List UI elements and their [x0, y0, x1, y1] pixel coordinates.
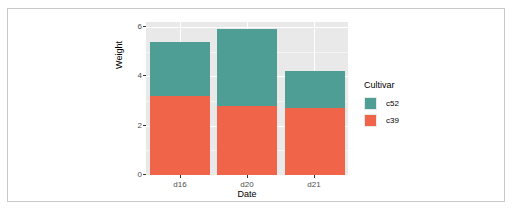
y-tick-label: 4 — [128, 72, 142, 80]
plot-panel — [146, 22, 348, 175]
x-tick-label: d20 — [227, 180, 267, 189]
legend-item[interactable]: c39 — [364, 112, 434, 129]
bar-group[interactable] — [217, 29, 277, 175]
legend-items: c52c39 — [364, 95, 434, 129]
legend-key — [364, 114, 377, 127]
chart-figure: Weight 0246 d16d20d21 Date Cultivar c52c… — [7, 8, 505, 202]
bar-segment[interactable] — [150, 42, 210, 96]
bar-segment[interactable] — [150, 96, 210, 175]
bar-segment[interactable] — [217, 106, 277, 175]
y-tick-label: 0 — [128, 171, 142, 179]
legend-title: Cultivar — [364, 80, 434, 91]
y-tick-label: 6 — [128, 23, 142, 31]
x-tick-mark — [314, 175, 315, 178]
legend-label: c39 — [386, 116, 399, 125]
legend-key — [364, 97, 377, 110]
y-tick-label: 2 — [128, 122, 142, 130]
x-axis-title: Date — [146, 189, 348, 199]
legend-label: c52 — [386, 99, 399, 108]
bar-segment[interactable] — [285, 108, 345, 175]
bar-group[interactable] — [285, 71, 345, 175]
legend: Cultivar c52c39 — [364, 80, 434, 129]
x-tick-label: d21 — [294, 180, 334, 189]
bar-segment[interactable] — [217, 29, 277, 106]
bar-segment[interactable] — [285, 71, 345, 108]
legend-swatch — [365, 98, 376, 109]
x-tick-mark — [247, 175, 248, 178]
x-tick-mark — [180, 175, 181, 178]
x-tick-label: d16 — [160, 180, 200, 189]
y-axis: 0246 — [120, 9, 142, 203]
bar-group[interactable] — [150, 42, 210, 175]
legend-swatch — [365, 115, 376, 126]
legend-item[interactable]: c52 — [364, 95, 434, 112]
